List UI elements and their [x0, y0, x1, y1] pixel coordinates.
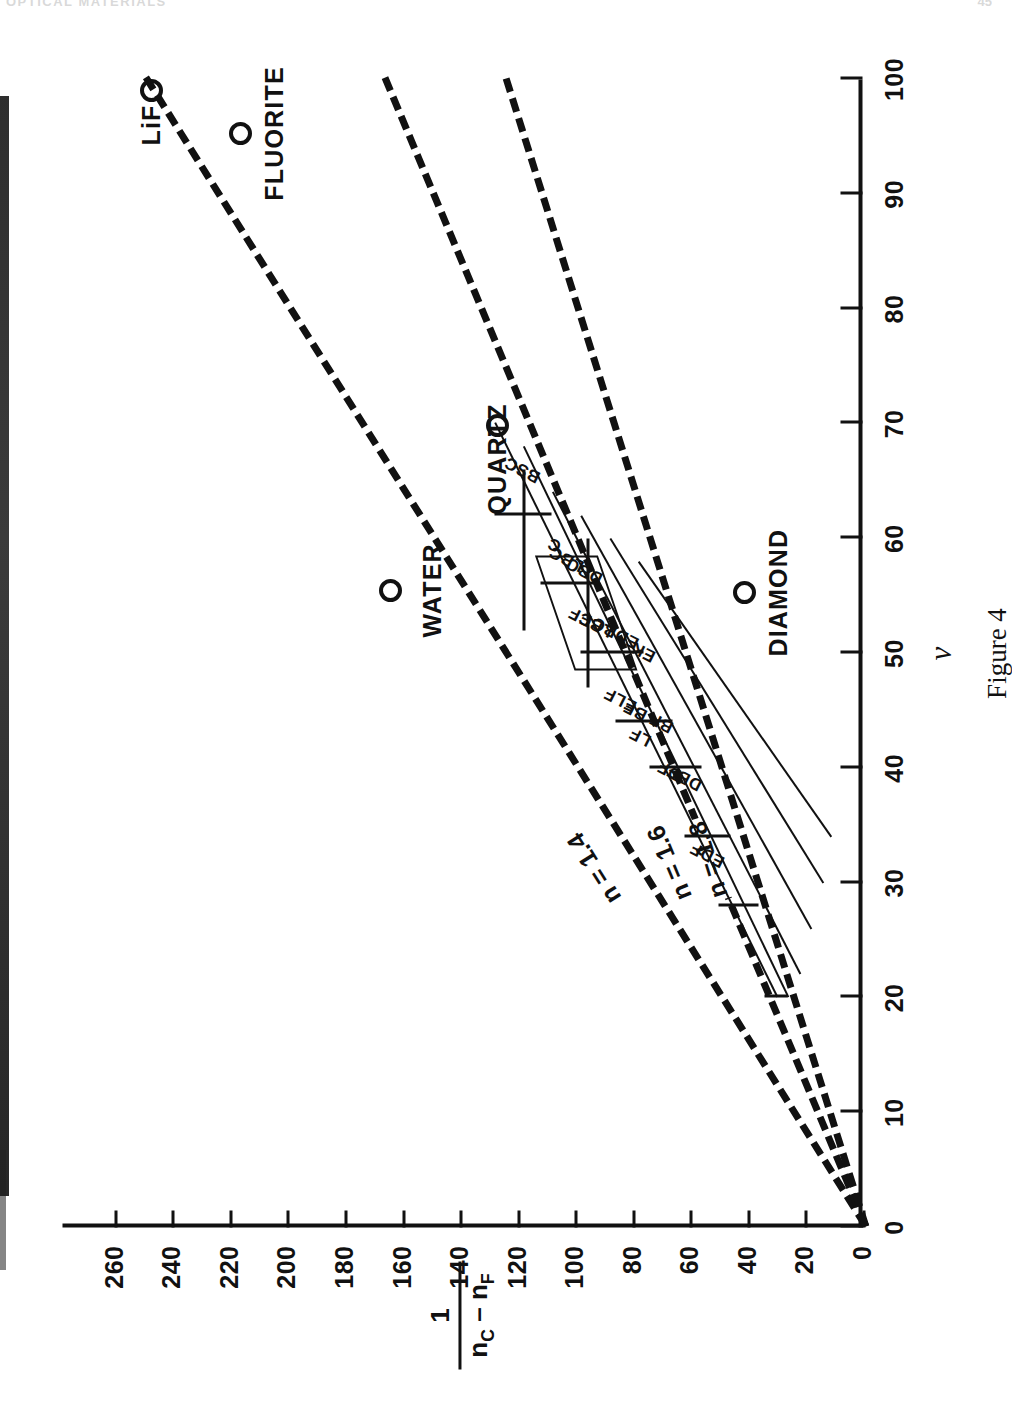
y-tick-label: 80	[617, 1245, 646, 1274]
y-tick-label: 60	[675, 1245, 704, 1274]
marker-label-fluorite: FLUORITE	[260, 66, 289, 201]
x-tick-label: 0	[879, 1220, 908, 1234]
x-tick-label: 20	[879, 983, 908, 1012]
marker-lif	[140, 79, 163, 102]
x-tick-label: 50	[879, 639, 908, 668]
marker-label-diamond: DIAMOND	[764, 528, 793, 656]
cluster-crossbar-6	[718, 903, 758, 906]
y-tick-label: 40	[732, 1245, 761, 1274]
x-tick-label: 40	[879, 753, 908, 782]
cluster-crossbar-7	[764, 994, 787, 997]
y-tick-label: 20	[790, 1245, 819, 1274]
x-tick-label: 10	[879, 1098, 908, 1127]
y-axis-label-denominator: nC – nF	[463, 1255, 497, 1375]
marker-diamond	[733, 581, 756, 604]
x-tick-label: 60	[879, 524, 908, 553]
y-tick-label: 180	[330, 1245, 359, 1288]
glass-type-cluster: BSCCLBCDBCCFLBFEDBCEKELFBFBFLFDFDBFEDF	[62, 79, 862, 1227]
nc-symbol: nC	[463, 1328, 493, 1357]
y-tick-label: 240	[157, 1245, 186, 1288]
nf-symbol: nF	[463, 1273, 493, 1300]
x-axis-label: ν	[922, 646, 958, 660]
y-tick-label: 160	[387, 1245, 416, 1288]
marker-label-water: WATER	[418, 543, 447, 637]
marker-label-lif: LiF	[137, 104, 166, 145]
nf-subscript: F	[477, 1273, 497, 1284]
y-tick-label: 220	[214, 1245, 243, 1288]
y-tick-label: 100	[560, 1245, 589, 1288]
y-tick-label: 0	[848, 1245, 877, 1259]
y-axis-label-numerator: 1	[427, 1255, 456, 1375]
marker-label-quartz: QUARTZ	[482, 403, 511, 514]
cluster-crossbar-5	[684, 834, 730, 837]
plot-area: 0102030405060708090100 02040608010012014…	[62, 79, 862, 1227]
nc-subscript: C	[477, 1328, 497, 1341]
x-tick-label: 100	[879, 57, 908, 100]
x-tick-label: 70	[879, 409, 908, 438]
y-tick-label: 260	[99, 1245, 128, 1288]
figure-caption: Figure 4	[981, 608, 1012, 699]
x-tick-label: 90	[879, 179, 908, 208]
marker-water	[379, 578, 402, 601]
cluster-top-separator	[522, 469, 525, 630]
x-tick-label: 30	[879, 868, 908, 897]
y-tick-label: 120	[502, 1245, 531, 1288]
y-axis-label: 1 nC – nF	[427, 1255, 497, 1375]
marker-fluorite	[229, 121, 252, 144]
x-tick-label: 80	[879, 294, 908, 323]
glass-type-label-edf-14: EDF	[686, 837, 727, 871]
minus-symbol: –	[463, 1307, 493, 1321]
fraction-bar	[458, 1261, 461, 1369]
y-tick-label: 200	[272, 1245, 301, 1288]
